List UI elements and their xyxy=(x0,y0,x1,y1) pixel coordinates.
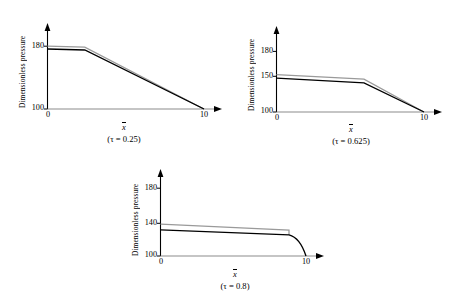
y-axis-arrow-1 xyxy=(45,23,51,31)
series-analytical-1 xyxy=(48,49,205,109)
panel-tau-0-25: Dimensionless pressure 180 100 0 10 x (τ… xyxy=(4,4,232,146)
series-analytical-2 xyxy=(277,78,425,112)
x-tick-label-0-3: 0 xyxy=(153,257,169,266)
panel-tau-0-8: Dimensionless pressure 180 140 100 0 10 … xyxy=(114,152,349,296)
x-tick-label-10-2: 10 xyxy=(416,113,432,122)
x-axis-label-3: x xyxy=(225,269,245,279)
figure-page: Dimensionless pressure 180 100 0 10 x (τ… xyxy=(0,0,465,296)
x-bar-glyph-1: x xyxy=(122,122,126,132)
x-tick-label-10-3: 10 xyxy=(298,257,314,266)
x-bar-glyph-3: x xyxy=(233,269,237,279)
panel-caption-3: (τ = 0.8) xyxy=(185,281,285,291)
x-tick-label-0-2: 0 xyxy=(269,113,285,122)
panel-caption-1: (τ = 0.25) xyxy=(74,134,174,144)
x-axis-arrow-2 xyxy=(434,109,442,115)
series-numerical-3 xyxy=(161,224,290,235)
x-axis-label-1: x xyxy=(114,122,134,132)
x-bar-glyph-2: x xyxy=(349,124,353,134)
x-tick-label-0-1: 0 xyxy=(40,110,56,119)
panel-caption-2: (τ = 0.625) xyxy=(301,136,401,146)
series-analytical-3 xyxy=(161,230,307,256)
y-axis-arrow-3 xyxy=(158,169,164,177)
x-axis-arrow-3 xyxy=(316,253,324,259)
x-axis-label-2: x xyxy=(341,124,361,134)
series-numerical-1 xyxy=(48,46,205,109)
y-axis-arrow-2 xyxy=(274,26,280,34)
panel-tau-0-625: Dimensionless pressure 180 150 100 0 10 … xyxy=(237,4,465,146)
x-tick-label-10-1: 10 xyxy=(196,110,212,119)
series-numerical-2 xyxy=(277,75,425,112)
x-axis-arrow-1 xyxy=(214,106,222,112)
